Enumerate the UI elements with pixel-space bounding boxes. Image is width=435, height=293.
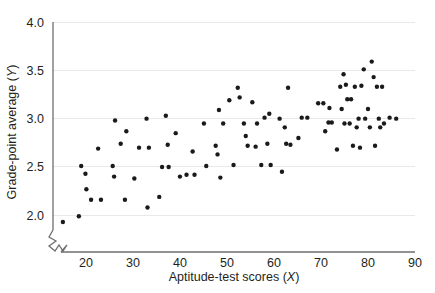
data-point [323,129,327,133]
x-tick-labels: 2030405060708090 [79,256,422,270]
data-point [358,145,362,149]
data-point [204,164,208,168]
plot-canvas: 2.02.53.03.54.0 2030405060708090 Aptitud… [0,0,435,293]
data-point [265,142,269,146]
data-point [283,125,287,129]
data-point [217,108,221,112]
data-point [147,145,151,149]
data-point [338,85,342,89]
data-point [377,116,381,120]
data-point [145,205,149,209]
data-point [160,165,164,169]
data-point [157,195,161,199]
data-point [351,143,355,147]
y-axis-title: Grade-point average (Y) [5,65,19,200]
data-point [371,75,375,79]
data-point [368,125,372,129]
data-point [174,131,178,135]
data-point [277,116,281,120]
data-point [118,142,122,146]
data-point [242,121,246,125]
data-point [231,163,235,167]
data-point [280,170,284,174]
data-point [380,85,384,89]
y-tick-label-2.5: 2.5 [27,160,44,174]
data-point [378,125,382,129]
data-point [96,146,100,150]
data-point [124,129,128,133]
data-point [99,198,103,202]
data-point [267,112,271,116]
data-point [327,106,331,110]
data-point [123,198,127,202]
data-point [359,84,363,88]
data-point [184,172,188,176]
data-point [344,83,348,87]
data-point [394,116,398,120]
data-point [284,142,288,146]
data-point [255,121,259,125]
data-point [382,121,386,125]
data-point [144,116,148,120]
data-point [112,174,116,178]
data-point [237,95,241,99]
data-point [227,98,231,102]
data-point [190,149,194,153]
x-tick-label-50: 50 [220,256,234,270]
data-point [356,116,360,120]
data-point [84,187,88,191]
y-tick-label-4.0: 4.0 [27,16,44,30]
data-point [61,220,65,224]
data-point [79,164,83,168]
scatter-plot-figure: 2.02.53.03.54.0 2030405060708090 Aptitud… [0,0,435,293]
data-point [316,101,320,105]
data-point [370,59,374,63]
data-point [166,165,170,169]
data-point [363,116,367,120]
data-point [178,174,182,178]
data-point [347,121,351,125]
x-tick-label-70: 70 [314,256,328,270]
x-axis-title: Aptitude-test scores (X) [169,270,300,284]
x-tick-label-60: 60 [267,256,281,270]
data-point [262,115,266,119]
data-point [373,143,377,147]
data-point [341,72,345,76]
zigzag-break-icon [49,230,67,252]
data-point [132,176,136,180]
data-point [335,147,339,151]
data-point [215,152,219,156]
data-point [244,134,248,138]
x-tick-label-40: 40 [173,256,187,270]
data-point [250,100,254,104]
data-point [366,107,370,111]
data-point [353,85,357,89]
data-point [89,198,93,202]
data-point [345,97,349,101]
data-point [213,143,217,147]
data-point [387,115,391,119]
data-point [299,115,303,119]
data-point [221,121,225,125]
x-tick-label-80: 80 [361,256,375,270]
data-point [192,172,196,176]
data-point [245,143,249,147]
data-point [253,144,257,148]
axis-break-mark [49,230,67,252]
data-points [61,59,399,224]
data-point [296,136,300,140]
y-tick-label-2.0: 2.0 [27,209,44,223]
data-point [236,86,240,90]
data-point [305,115,309,119]
y-tick-label-3.5: 3.5 [27,64,44,78]
x-tick-label-20: 20 [79,256,93,270]
data-point [218,175,222,179]
data-point [202,121,206,125]
data-point [268,163,272,167]
data-point [137,145,141,149]
y-tick-label-3.0: 3.0 [27,112,44,126]
data-point [113,118,117,122]
data-point [321,101,325,105]
data-point [342,121,346,125]
data-point [362,67,366,71]
